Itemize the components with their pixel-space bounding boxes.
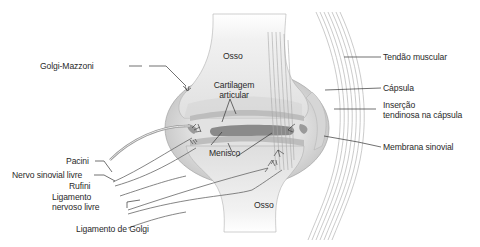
label-rufini: Rufini xyxy=(69,181,90,191)
label-menisco: Menisco xyxy=(209,148,240,158)
label-insercao-line2: tendinosa na cápsula xyxy=(383,110,462,120)
label-cartilagem-line2: articular xyxy=(208,90,260,100)
label-ligamento-nervoso-livre-line2: nervoso livre xyxy=(52,202,99,212)
label-insercao-line1: Inserção xyxy=(383,100,415,110)
label-pacini: Pacini xyxy=(66,156,89,166)
label-golgi-mazzoni: Golgi-Mazzoni xyxy=(40,61,94,71)
upper-bone xyxy=(179,14,308,118)
label-tendao-muscular: Tendão muscular xyxy=(383,52,447,62)
label-capsula: Cápsula xyxy=(383,83,414,93)
label-ligamento-nervoso-livre-line1: Ligamento xyxy=(52,192,91,202)
lower-bone xyxy=(186,146,304,232)
label-osso-inferior: Osso xyxy=(254,200,274,210)
label-ligamento-de-golgi: Ligamento de Golgi xyxy=(76,224,149,234)
label-cartilagem-line1: Cartilagem xyxy=(208,80,260,90)
joint-diagram: Golgi-Mazzoni Pacini Nervo sinovial livr… xyxy=(0,0,480,247)
label-membrana-sinovial: Membrana sinovial xyxy=(383,142,453,152)
label-osso-superior: Osso xyxy=(223,51,243,61)
label-nervo-sinovial-livre: Nervo sinovial livre xyxy=(12,170,82,180)
